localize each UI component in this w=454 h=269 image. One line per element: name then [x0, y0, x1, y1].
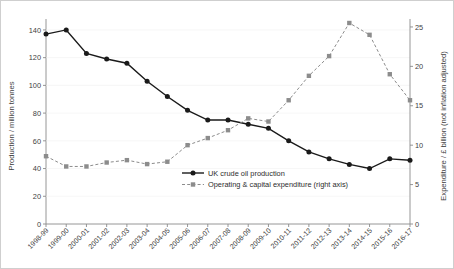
x-tick-label: 2013-14 [330, 227, 354, 251]
x-tick-label: 2003-04 [127, 227, 151, 251]
y-tick-label: 20 [33, 192, 41, 201]
data-point [327, 54, 331, 58]
data-point [104, 160, 108, 164]
data-point [408, 158, 413, 163]
y2-tick-label: 15 [415, 101, 423, 110]
x-tick-label: 2001-02 [87, 227, 111, 251]
data-point [44, 32, 49, 37]
data-point [408, 98, 412, 102]
data-point [44, 154, 48, 158]
y-axis-right: 0510152025 [410, 19, 423, 229]
y-tick-label: 0 [37, 220, 41, 229]
x-tick-label: 2008-09 [229, 227, 253, 251]
y-tick-label: 120 [29, 53, 41, 62]
x-tick-label: 2002-03 [107, 227, 131, 251]
y-tick-label: 40 [33, 164, 41, 173]
data-point [387, 156, 392, 161]
data-point [124, 61, 129, 66]
data-point [104, 57, 109, 62]
y-tick-label: 60 [33, 137, 41, 146]
y-axis-right-title: Expenditure / £ billion (not inflation a… [439, 51, 448, 201]
x-tick-label: 2011-12 [290, 227, 314, 251]
legend-marker-1 [191, 182, 195, 186]
legend-marker-0 [191, 171, 196, 176]
y2-tick-label: 10 [415, 141, 423, 150]
data-point [266, 119, 270, 123]
data-point [246, 122, 251, 127]
x-tick-label: 2004-05 [148, 227, 172, 251]
data-point [347, 21, 351, 25]
legend-label-1: Operating & capital expenditure (right a… [208, 180, 348, 189]
data-point [185, 108, 190, 113]
y-axis-left-title: Production / million tonnes [7, 81, 16, 170]
y-tick-label: 80 [33, 109, 41, 118]
y-axis-left: 020406080100120140 [29, 19, 410, 229]
data-point [246, 116, 250, 120]
data-point [307, 74, 311, 78]
data-point [64, 164, 68, 168]
x-tick-label: 2015-16 [370, 227, 394, 251]
data-point [64, 27, 69, 32]
x-tick-label: 1999-00 [47, 227, 71, 251]
x-tick-label: 2016-17 [390, 227, 414, 251]
x-tick-label: 2000-01 [67, 227, 91, 251]
data-point [388, 72, 392, 76]
x-axis: 1998-991999-002000-012001-022002-032003-… [26, 224, 414, 251]
data-point [165, 94, 170, 99]
data-point [327, 156, 332, 161]
x-tick-label: 2010-11 [269, 227, 293, 251]
series-line-1 [46, 23, 410, 166]
data-point [145, 162, 149, 166]
x-tick-label: 2007-08 [208, 227, 232, 251]
data-series-group [44, 21, 413, 171]
data-point [145, 79, 150, 84]
data-point [286, 138, 291, 143]
data-point [205, 118, 210, 123]
x-tick-label: 1998-99 [26, 227, 50, 251]
data-point [286, 98, 290, 102]
data-point [367, 33, 371, 37]
legend-label-0: UK crude oil production [208, 169, 285, 178]
y-tick-label: 140 [29, 26, 41, 35]
x-tick-label: 2014-15 [350, 227, 374, 251]
data-point [125, 158, 129, 162]
y-tick-label: 100 [29, 81, 41, 90]
data-point [185, 143, 189, 147]
y2-tick-label: 0 [415, 220, 419, 229]
chart-legend: UK crude oil productionOperating & capit… [182, 169, 348, 190]
y2-tick-label: 20 [415, 62, 423, 71]
data-point [226, 118, 231, 123]
x-tick-label: 2005-06 [168, 227, 192, 251]
data-point [165, 160, 169, 164]
y2-tick-label: 25 [415, 23, 423, 32]
y2-tick-label: 5 [415, 180, 419, 189]
data-point [266, 126, 271, 131]
data-point [306, 149, 311, 154]
x-tick-label: 2006-07 [188, 227, 212, 251]
data-point [206, 136, 210, 140]
chart-figure: 020406080100120140 0510152025 1998-99199… [0, 0, 454, 269]
data-point [347, 162, 352, 167]
data-point [226, 128, 230, 132]
series-line-0 [46, 30, 410, 169]
chart-canvas: 020406080100120140 0510152025 1998-99199… [1, 1, 454, 269]
data-point [367, 166, 372, 171]
data-point [84, 51, 89, 56]
data-point [84, 164, 88, 168]
x-tick-label: 2009-10 [249, 227, 273, 251]
x-tick-label: 2012-13 [309, 227, 333, 251]
